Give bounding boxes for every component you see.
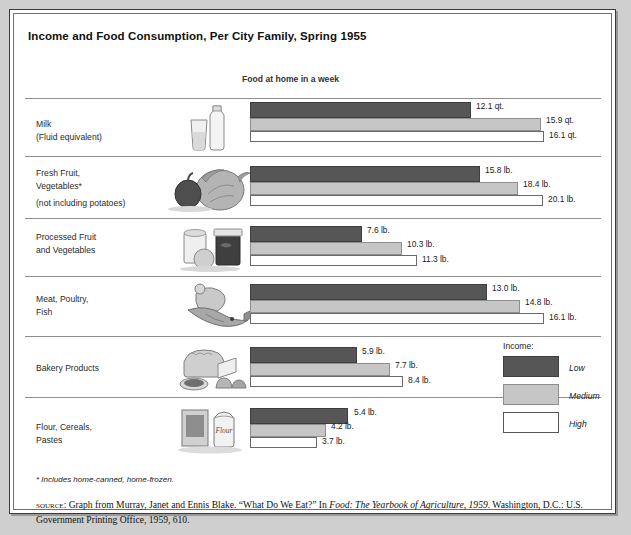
value-label-low-flour: 5.4 lb.: [354, 407, 377, 417]
legend-title: Income:: [503, 341, 623, 351]
value-label-high-bakery: 8.4 lb.: [408, 375, 431, 385]
bar-medium-flour: [250, 424, 326, 437]
legend-item-low: Low: [503, 356, 623, 384]
bar-high-milk: [250, 131, 544, 142]
row-divider: [25, 336, 601, 337]
value-label-medium-fresh-fruit: 18.4 lb.: [523, 179, 550, 189]
value-label-low-meat: 13.0 lb.: [492, 283, 519, 293]
bar-high-bakery: [250, 376, 403, 387]
category-label-flour: Flour, Cereals, Pastes: [36, 421, 92, 446]
category-label-meat: Meat, Poultry, Fish: [36, 293, 88, 318]
value-label-low-fresh-fruit: 15.8 lb.: [485, 165, 512, 175]
bar-high-fresh-fruit: [250, 195, 543, 206]
milk-bottle-and-glass-icon: [169, 100, 253, 152]
bar-medium-meat: [250, 300, 520, 313]
svg-text:Flour: Flour: [214, 426, 232, 435]
category-label-processed-fruit: Processed Fruit and Vegetables: [36, 231, 96, 256]
value-label-medium-milk: 15.9 qt.: [546, 115, 574, 125]
bread-and-muffins-icon: [164, 342, 248, 394]
legend-swatch-high: [503, 412, 559, 433]
page-title: Income and Food Consumption, Per City Fa…: [28, 30, 366, 42]
row-divider: [25, 276, 601, 277]
legend-label-low: Low: [569, 363, 585, 373]
legend: Income: Low Medium High: [503, 341, 623, 440]
value-label-high-milk: 16.1 qt.: [549, 130, 577, 140]
row-divider: [25, 156, 601, 157]
legend-item-medium: Medium: [503, 384, 623, 412]
poultry-and-fish-icon: [166, 280, 250, 332]
bar-medium-fresh-fruit: [250, 182, 518, 195]
bar-high-processed-fruit: [250, 255, 417, 266]
category-label-fresh-fruit: Fresh Fruit, Vegetables* (not including …: [36, 167, 125, 210]
legend-label-medium: Medium: [569, 391, 600, 401]
source-prefix: source: [36, 500, 64, 510]
column-header: Food at home in a week: [242, 74, 339, 84]
bar-medium-bakery: [250, 363, 390, 376]
bar-high-meat: [250, 313, 544, 324]
bar-low-processed-fruit: [250, 226, 362, 242]
source-note: source: Graph from Murray, Janet and Enn…: [36, 498, 598, 526]
bar-low-meat: [250, 284, 487, 300]
value-label-medium-flour: 4.2 lb.: [331, 421, 354, 431]
chart-inner-border: Income and Food Consumption, Per City Fa…: [13, 13, 612, 510]
canned-goods-icon: [166, 223, 250, 275]
bar-low-milk: [250, 102, 471, 118]
bar-medium-milk: [250, 118, 541, 131]
legend-label-high: High: [569, 419, 587, 429]
flour-sack-and-cereal-box-icon: Flour: [166, 402, 250, 454]
category-label-bakery: Bakery Products: [36, 362, 99, 375]
row-divider: [25, 98, 601, 99]
legend-swatch-low: [503, 356, 559, 377]
footnote: * Includes home-canned, home-frozen.: [36, 475, 174, 484]
legend-item-high: High: [503, 412, 623, 440]
value-label-high-processed-fruit: 11.3 lb.: [422, 254, 449, 264]
chart-frame: Income and Food Consumption, Per City Fa…: [9, 9, 616, 514]
bar-high-flour: [250, 437, 317, 448]
value-label-high-flour: 3.7 lb.: [322, 436, 345, 446]
value-label-medium-meat: 14.8 lb.: [525, 297, 552, 307]
value-label-low-processed-fruit: 7.6 lb.: [367, 225, 390, 235]
value-label-high-fresh-fruit: 20.1 lb.: [548, 194, 575, 204]
cabbage-and-pepper-icon: [164, 164, 248, 216]
value-label-low-bakery: 5.9 lb.: [362, 346, 385, 356]
source-text-1: : Graph from Murray, Janet and Ennis Bla…: [64, 499, 330, 510]
value-label-medium-bakery: 7.7 lb.: [395, 360, 418, 370]
category-label-milk: Milk (Fluid equivalent): [36, 118, 102, 143]
row-divider: [25, 218, 601, 219]
value-label-low-milk: 12.1 qt.: [476, 101, 504, 111]
source-italic-title: Food: The Yearbook of Agriculture, 1959: [329, 499, 487, 510]
value-label-high-meat: 16.1 lb.: [549, 312, 576, 322]
value-label-medium-processed-fruit: 10.3 lb.: [407, 239, 434, 249]
legend-swatch-medium: [503, 384, 559, 405]
bar-low-bakery: [250, 347, 357, 363]
bar-low-fresh-fruit: [250, 166, 480, 182]
bar-medium-processed-fruit: [250, 242, 402, 255]
